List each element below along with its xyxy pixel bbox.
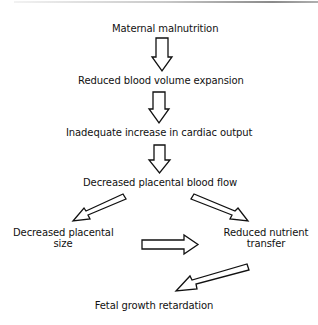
down-arrow-icon [149,145,170,173]
node-label-line1: Reduced nutrient [220,227,312,238]
node-label: Decreased placental blood flow [83,177,233,188]
node-label: Maternal malnutrition [112,23,212,34]
diagonal-arrow-down-right-icon [191,194,248,221]
node-label-line2: transfer [220,238,312,249]
node-inadequate-cardiac-output: Inadequate increase in cardiac output [66,127,250,138]
node-fetal-growth-retardation: Fetal growth retardation [93,300,215,311]
flow-arrows [0,0,318,325]
node-reduced-blood-volume-expansion: Reduced blood volume expansion [78,75,238,86]
diagonal-arrow-down-left-icon [176,264,249,291]
node-label-line2: size [13,238,113,249]
node-label: Fetal growth retardation [93,300,215,311]
node-reduced-nutrient-transfer: Reduced nutrient transfer [220,227,312,249]
node-decreased-placental-size: Decreased placental size [13,227,113,249]
node-label: Reduced blood volume expansion [78,75,238,86]
right-arrow-icon [142,235,198,254]
node-maternal-malnutrition: Maternal malnutrition [112,23,212,34]
node-label-line1: Decreased placental [13,227,113,238]
diagonal-arrow-down-left-icon [73,194,126,221]
down-arrow-icon [152,38,172,71]
node-label: Inadequate increase in cardiac output [66,127,250,138]
node-decreased-placental-blood-flow: Decreased placental blood flow [83,177,233,188]
down-arrow-icon [149,92,169,123]
